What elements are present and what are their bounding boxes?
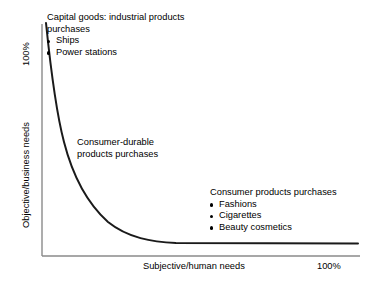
list-item-label: Beauty cosmetics	[219, 222, 292, 232]
annotation-capital-goods-line1: Capital goods: industrial products	[47, 12, 184, 24]
list-item-label: Fashions	[219, 199, 257, 209]
list-item: Power stations	[47, 47, 184, 59]
annotation-consumer-products: Consumer products purchases Fashions Cig…	[210, 187, 337, 233]
list-item-label: Cigarettes	[219, 210, 261, 220]
list-item-label: Power stations	[56, 47, 117, 57]
annotation-consumer-durable-line1: Consumer-durable	[77, 137, 158, 149]
list-item-label: Ships	[56, 35, 79, 45]
annotation-consumer-durable-line2: products purchases	[77, 149, 158, 161]
y-axis-label: Objective/business needs	[21, 122, 31, 228]
bullet-icon	[47, 40, 50, 43]
chart-figure: Capital goods: industrial products purch…	[0, 0, 374, 292]
bullet-icon	[47, 51, 50, 54]
annotation-capital-goods: Capital goods: industrial products purch…	[47, 12, 184, 58]
list-item: Ships	[47, 35, 184, 47]
annotation-consumer-products-line1: Consumer products purchases	[210, 187, 337, 199]
y-axis-max-tick-label: 100%	[21, 42, 31, 66]
list-item: Fashions	[210, 199, 337, 211]
annotation-capital-goods-list: Ships Power stations	[47, 35, 184, 58]
x-axis-label: Subjective/human needs	[143, 261, 245, 271]
list-item: Beauty cosmetics	[210, 222, 337, 234]
bullet-icon	[210, 203, 213, 206]
list-item: Cigarettes	[210, 210, 337, 222]
annotation-capital-goods-line2: purchases	[47, 24, 184, 36]
bullet-icon	[210, 226, 213, 229]
bullet-icon	[210, 215, 213, 218]
annotation-consumer-products-list: Fashions Cigarettes Beauty cosmetics	[210, 199, 337, 234]
x-axis-max-tick-label: 100%	[317, 261, 341, 271]
annotation-consumer-durable: Consumer-durable products purchases	[77, 137, 158, 160]
